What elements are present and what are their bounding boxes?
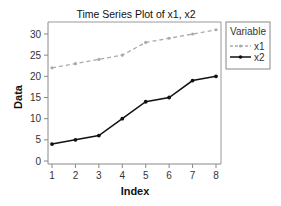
y-tick-label: 20 <box>30 71 42 82</box>
chart-title: Time Series Plot of x1, x2 <box>76 8 195 20</box>
series-x2-path <box>52 76 216 144</box>
x-tick-label: 6 <box>166 170 172 181</box>
legend-x2-label: x2 <box>254 52 265 63</box>
x-tick-label: 7 <box>190 170 196 181</box>
data-point-x1 <box>97 58 100 61</box>
y-axis-ticks: 051015202530 <box>30 29 48 167</box>
data-point-x1 <box>214 28 217 31</box>
y-tick-label: 25 <box>30 50 42 61</box>
legend-x1-label: x1 <box>254 41 265 52</box>
y-tick-label: 30 <box>30 29 42 40</box>
data-point-x1 <box>74 62 77 65</box>
y-tick-label: 5 <box>35 134 41 145</box>
data-point-x2 <box>97 134 101 138</box>
plot-area <box>48 22 221 164</box>
x-tick-label: 1 <box>49 170 55 181</box>
series-x1-path <box>52 30 216 68</box>
x-tick-label: 3 <box>96 170 102 181</box>
x-tick-label: 5 <box>143 170 149 181</box>
data-point-x1 <box>168 37 171 40</box>
y-tick-label: 0 <box>35 156 41 167</box>
time-series-chart: Time Series Plot of x1, x2 051015202530 … <box>0 0 281 206</box>
x-axis-label: Index <box>121 185 151 197</box>
x-tick-label: 2 <box>73 170 79 181</box>
data-point-x1 <box>144 41 147 44</box>
x-tick-label: 4 <box>120 170 126 181</box>
legend: Variable x1 x2 <box>226 22 270 69</box>
data-point-x1 <box>121 54 124 57</box>
y-tick-label: 15 <box>30 92 42 103</box>
legend-x1-marker-icon <box>239 44 242 47</box>
legend-x2-marker-icon <box>239 55 243 59</box>
data-point-x2 <box>214 74 218 78</box>
data-point-x1 <box>191 32 194 35</box>
data-point-x2 <box>50 142 54 146</box>
data-point-x2 <box>144 100 148 104</box>
y-tick-label: 10 <box>30 113 42 124</box>
x-tick-label: 8 <box>213 170 219 181</box>
data-point-x2 <box>191 79 195 83</box>
legend-title: Variable <box>230 26 266 37</box>
series-x2-line <box>50 74 218 146</box>
data-point-x2 <box>120 117 124 121</box>
data-point-x2 <box>167 96 171 100</box>
data-point-x2 <box>74 138 78 142</box>
y-axis-label: Data <box>12 84 24 109</box>
series-x1-line <box>50 28 217 69</box>
data-point-x1 <box>50 66 53 69</box>
x-axis-ticks: 12345678 <box>49 164 219 181</box>
